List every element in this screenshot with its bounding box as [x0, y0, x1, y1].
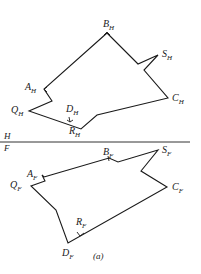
arrow-d-h: [67, 117, 73, 122]
plane-label-f: F: [3, 143, 10, 153]
label-q-h: QH: [11, 104, 24, 118]
label-a-f: AF: [26, 168, 38, 182]
label-r-f: RF: [75, 216, 87, 230]
figure-caption: (a): [93, 251, 104, 261]
front-view: BF SF CF AF QF RF DF: [10, 144, 184, 261]
top-view-outline: [29, 33, 168, 129]
label-q-f: QF: [10, 179, 22, 193]
label-c-f: CF: [172, 181, 184, 195]
label-s-f: SF: [162, 144, 172, 158]
label-a-h: AH: [24, 81, 37, 95]
label-r-h: RH: [68, 125, 81, 139]
label-c-h: CH: [172, 92, 185, 106]
orthographic-projection-diagram: BH SH CH AH QH DH RH H F BF: [0, 0, 201, 274]
plane-label-h: H: [3, 131, 11, 141]
top-view: BH SH CH AH QH DH RH: [11, 18, 185, 139]
marker-r-f: [77, 232, 84, 236]
front-view-outline: [31, 150, 167, 243]
label-d-h: DH: [65, 103, 79, 117]
label-d-f: DF: [61, 247, 74, 261]
label-b-h: BH: [103, 18, 115, 32]
label-s-h: SH: [162, 48, 173, 62]
label-b-f: BF: [103, 146, 114, 160]
